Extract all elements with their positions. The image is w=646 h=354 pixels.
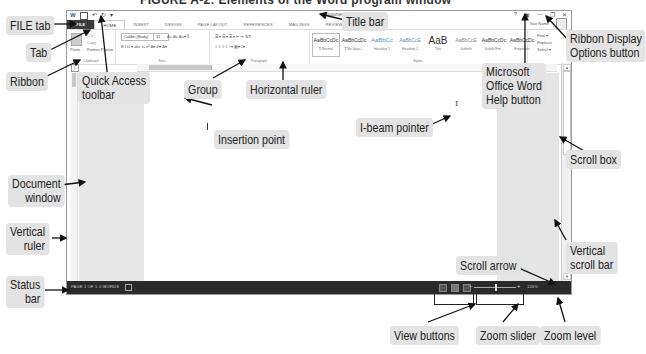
tab-design[interactable]: DESIGN — [157, 20, 190, 29]
callout-ibeam-pointer: I-beam pointer — [356, 118, 433, 137]
zoom-slider-bracket — [476, 294, 524, 305]
title-bar: W ↶ ↻ ▾ Document1 - Word ? ▣ — ❐ ✕ — [67, 11, 571, 20]
style-heading-2[interactable]: AaBbCcEHeading 2 — [396, 33, 424, 57]
ribbon: Paste Cut Copy Format Painter Clipboard … — [67, 29, 571, 65]
callout-scroll-box: Scroll box — [566, 150, 621, 169]
scroll-box[interactable] — [563, 71, 571, 155]
style-no-spacing[interactable]: AaBbCcDc¶ No Spac... — [340, 33, 368, 57]
style-title[interactable]: AaBTitle — [424, 33, 452, 57]
view-buttons-bracket — [434, 294, 474, 305]
select-button[interactable]: Select ▾ — [537, 47, 551, 52]
print-layout-button[interactable] — [451, 284, 459, 292]
group-clipboard: Paste Cut Copy Format Painter Clipboard — [67, 30, 116, 64]
minimize-button[interactable]: — — [537, 11, 543, 18]
callout-vertical-scroll-bar: Vertical scroll bar — [566, 242, 617, 274]
zoom-level[interactable]: 120% — [527, 284, 538, 289]
paste-icon[interactable] — [71, 33, 82, 46]
group-label-font: Font — [115, 59, 209, 63]
tab-insert[interactable]: INSERT — [125, 20, 157, 29]
paragraph-tools-row1[interactable]: ☰▾ ☰▾ ☰▾ ⇤ ⇥ ⇅ ¶ — [215, 34, 251, 39]
user-name[interactable]: Your Name — [529, 21, 549, 26]
ribbon-tabs: FILE HOME INSERT DESIGN PAGE LAYOUT REFE… — [67, 20, 571, 29]
callout-insertion-point: Insertion point — [214, 130, 289, 149]
ibeam-pointer-icon: I — [455, 99, 458, 108]
tab-home[interactable]: HOME — [94, 20, 125, 30]
zoom-out-button[interactable]: – — [469, 283, 472, 289]
callout-scroll-arrow: Scroll arrow — [456, 256, 520, 275]
tab-selector[interactable]: L — [71, 64, 79, 72]
ruler-margin — [149, 65, 211, 70]
callout-vertical-ruler: Vertical ruler — [6, 223, 49, 255]
group-label-paragraph: Paragraph — [209, 59, 309, 63]
callout-document-window: Document window — [8, 175, 65, 207]
word-window: W ↶ ↻ ▾ Document1 - Word ? ▣ — ❐ ✕ FILE … — [66, 10, 572, 295]
ribbon-display-options-button[interactable]: ▣ — [524, 11, 530, 18]
group-font: Calibri (Body) 11 A˄ A˅ Aa▾ ⁑ B I U ▾ ab… — [115, 30, 210, 64]
style-normal[interactable]: AaBbCcDc¶ Normal — [312, 33, 340, 57]
status-bar: PAGE 1 OF 1 0 WORDS – + 120% — [67, 281, 571, 294]
font-tools-row2[interactable]: B I U ▾ abc x₂ x² A▾ ✐▾ A▾ — [121, 44, 167, 49]
window-controls: ? ▣ — ❐ ✕ — [514, 11, 567, 18]
style-subtitle[interactable]: AaBbCcESubtitle — [452, 33, 480, 57]
tab-page-layout[interactable]: PAGE LAYOUT — [190, 20, 236, 29]
insertion-point — [207, 123, 208, 130]
tab-mailings[interactable]: MAILINGS — [281, 20, 318, 29]
format-painter-button[interactable]: Format Painter — [87, 47, 113, 52]
cut-button[interactable]: Cut — [87, 33, 93, 38]
zoom-in-button[interactable]: + — [517, 283, 521, 289]
callout-quick-access-toolbar: Quick Access toolbar — [78, 72, 150, 104]
callout-view-buttons: View buttons — [390, 326, 459, 345]
callout-tab: Tab — [26, 43, 51, 62]
word-icon[interactable]: W — [70, 12, 76, 20]
tab-file[interactable]: FILE — [67, 20, 94, 29]
replace-button[interactable]: Replace — [537, 40, 552, 45]
callout-zoom-level: Zoom level — [540, 326, 600, 345]
read-mode-button[interactable] — [439, 284, 447, 292]
close-button[interactable]: ✕ — [562, 11, 567, 18]
scroll-down-arrow[interactable]: ▼ — [563, 273, 571, 280]
callout-help-button: Microsoft Office Word Help button — [482, 63, 546, 109]
vertical-ruler[interactable] — [71, 73, 78, 281]
document-window-background — [79, 73, 144, 281]
callout-ribbon: Ribbon — [6, 72, 48, 91]
callout-horizontal-ruler: Horizontal ruler — [246, 80, 326, 99]
figure-caption: FIGURE A-2: Elements of the Word program… — [140, 0, 451, 7]
copy-button[interactable]: Copy — [87, 40, 96, 45]
group-paragraph: ☰▾ ☰▾ ☰▾ ⇤ ⇥ ⇅ ¶ ≡ ≡ ≡ ≡ ↕▾ ▦▾ □▾ Paragr… — [209, 30, 310, 64]
find-button[interactable]: Find ▾ — [537, 33, 548, 38]
page-count[interactable]: PAGE 1 OF 1 — [71, 284, 97, 289]
document-page[interactable] — [144, 73, 497, 281]
callout-status-bar: Status bar — [6, 276, 44, 308]
paragraph-tools-row2[interactable]: ≡ ≡ ≡ ≡ ↕▾ ▦▾ □▾ — [215, 44, 245, 49]
style-subtle-emphasis[interactable]: AaBbCcDcSubtle Em... — [480, 33, 508, 57]
font-name-select[interactable]: Calibri (Body) — [121, 33, 155, 41]
group-label-clipboard: Clipboard — [67, 59, 115, 63]
callout-zoom-slider: Zoom slider — [476, 326, 540, 345]
group-editing: Find ▾ Replace Select ▾ — [527, 30, 571, 64]
style-heading-1[interactable]: AaBbCcHeading 1 — [368, 33, 396, 57]
callout-title-bar: Title bar — [342, 12, 388, 31]
styles-gallery: AaBbCcDc¶ Normal AaBbCcDc¶ No Spac... Aa… — [312, 33, 536, 57]
paste-button[interactable]: Paste — [70, 47, 80, 52]
callout-group: Group — [184, 80, 222, 99]
word-count[interactable]: 0 WORDS — [99, 284, 119, 289]
zoom-slider-thumb[interactable] — [495, 284, 497, 291]
font-tools-row1[interactable]: A˄ A˅ Aa▾ ⁑ — [167, 34, 189, 39]
scroll-up-arrow[interactable]: ▲ — [563, 64, 571, 71]
callout-ribbon-display-options: Ribbon Display Options button — [566, 30, 646, 62]
tab-references[interactable]: REFERENCES — [235, 20, 280, 29]
restore-button[interactable]: ❐ — [550, 11, 555, 18]
help-button[interactable]: ? — [514, 11, 517, 18]
save-icon[interactable] — [80, 12, 88, 20]
proofing-icon[interactable] — [125, 284, 132, 291]
ruler-margin — [72, 73, 76, 87]
callout-file-tab: FILE tab — [6, 16, 54, 35]
